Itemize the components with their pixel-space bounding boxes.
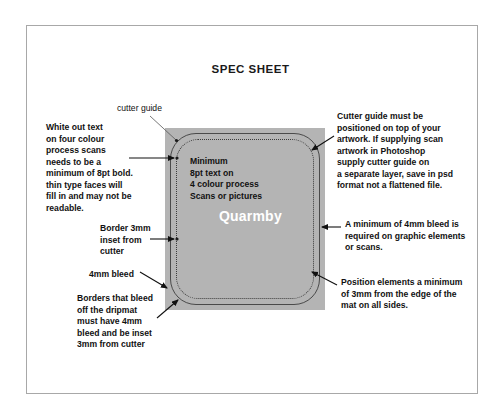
- annotation-cutter-guide-note: Cutter guide must be positioned on top o…: [337, 111, 453, 192]
- page-title: SPEC SHEET: [0, 63, 501, 75]
- quarmby-logo-text: Quarmby: [219, 208, 282, 224]
- annotation-position-elements: Position elements a minimum of 3mm from …: [341, 277, 462, 312]
- spec-sheet-page: SPEC SHEET Minimum 8pt text on 4 colour …: [0, 0, 501, 413]
- annotation-border-3mm: Border 3mm inset from cutter: [100, 223, 151, 258]
- dripmat-artwork: Minimum 8pt text on 4 colour process Sca…: [165, 128, 325, 310]
- annotation-borders-that-bleed: Borders that bleed off the dripmat must …: [77, 293, 153, 351]
- annotation-4mm-bleed: 4mm bleed: [89, 269, 134, 281]
- annotation-white-out-text: White out text on four colour process sc…: [46, 122, 133, 214]
- annotation-bleed-required: A minimum of 4mm bleed is required on gr…: [345, 219, 465, 254]
- annotation-cutter-guide-label: cutter guide: [117, 103, 162, 115]
- artwork-spec-text: Minimum 8pt text on 4 colour process Sca…: [190, 156, 262, 202]
